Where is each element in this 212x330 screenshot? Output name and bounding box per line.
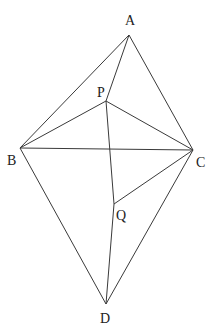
label-B: B bbox=[7, 153, 16, 168]
segment-PB bbox=[20, 101, 106, 148]
segment-PC bbox=[106, 101, 193, 150]
segment-QD bbox=[106, 204, 114, 304]
segment-CD bbox=[106, 150, 193, 304]
segment-AP bbox=[106, 35, 129, 101]
geometry-diagram: A P B C Q D bbox=[0, 0, 212, 330]
point-labels: A P B C Q D bbox=[7, 13, 205, 326]
label-Q: Q bbox=[116, 208, 126, 223]
segments bbox=[20, 35, 193, 304]
label-D: D bbox=[100, 311, 110, 326]
label-C: C bbox=[196, 155, 205, 170]
segment-AB bbox=[20, 35, 129, 148]
label-A: A bbox=[125, 13, 136, 28]
segment-QC bbox=[114, 150, 193, 204]
segment-AC bbox=[129, 35, 193, 150]
segment-BC bbox=[20, 148, 193, 150]
segment-BD bbox=[20, 148, 106, 304]
segment-PQ bbox=[106, 101, 114, 204]
label-P: P bbox=[97, 85, 105, 100]
